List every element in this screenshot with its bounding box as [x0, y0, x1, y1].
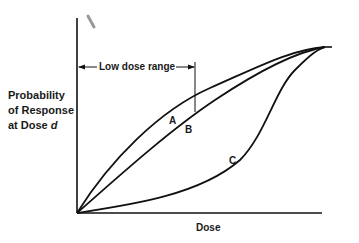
y-axis-label-text: at Dose [8, 119, 51, 131]
y-axis-label-line1: Probability [8, 88, 74, 103]
y-axis-label: Probability of Response at Dose d [8, 88, 74, 133]
curve-c-label: C [229, 156, 236, 166]
x-axis-label: Dose [196, 222, 220, 233]
range-arrow-left-head-icon [78, 65, 85, 70]
range-arrow-right-head-icon [188, 65, 195, 70]
curve-b-label: B [185, 125, 192, 135]
curve-a-label: A [169, 116, 176, 126]
dose-response-chart: Probability of Response at Dose d Dose L… [0, 0, 359, 243]
y-axis-label-line3: at Dose d [8, 118, 74, 133]
y-axis-label-variable: d [51, 119, 58, 131]
low-dose-range-label: Low dose range [98, 61, 176, 73]
pen-mark-decoration [88, 16, 94, 27]
y-axis-label-line2: of Response [8, 103, 74, 118]
